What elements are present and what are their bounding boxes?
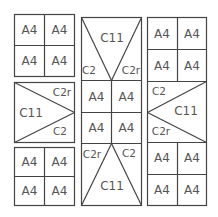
a4-label: A4	[184, 59, 200, 73]
a4-label: A4	[184, 183, 200, 197]
left-column: A4 A4 A4 A4 C2r C11 C2 A4 A4 A4 A4	[15, 15, 75, 206]
a4-label: A4	[119, 121, 135, 135]
a4-label: A4	[119, 90, 135, 104]
a4-label: A4	[89, 121, 105, 135]
right-c11-block: C2 C11 C2r	[148, 82, 207, 143]
a4-label: A4	[52, 23, 68, 37]
c2r-label: C2r	[122, 64, 141, 76]
c2-label: C2	[122, 147, 136, 159]
left-a4-grid-top: A4 A4 A4 A4	[15, 15, 75, 77]
c2-label: C2	[82, 64, 96, 76]
c11-label: C11	[174, 104, 198, 118]
a4-label: A4	[22, 184, 38, 198]
c2r-label: C2r	[53, 86, 72, 98]
envelope-layout-diagram: A4 A4 A4 A4 C2r C11 C2 A4 A4 A4 A4	[0, 0, 218, 217]
c2-label: C2	[53, 125, 67, 137]
middle-c11-top: C11 C2 C2r	[82, 18, 142, 81]
c2r-label: C2r	[83, 148, 102, 160]
right-a4-grid-top: A4 A4 A4 A4	[148, 18, 207, 82]
c11-label: C11	[19, 106, 43, 120]
middle-column: C11 C2 C2r A4 A4 A4 A4 C2r C2 C11	[82, 18, 142, 206]
a4-label: A4	[154, 151, 170, 165]
a4-label: A4	[154, 27, 170, 41]
a4-label: A4	[89, 90, 105, 104]
a4-label: A4	[154, 183, 170, 197]
c2-label: C2	[152, 85, 166, 97]
middle-c11-bottom: C2r C2 C11	[82, 144, 142, 206]
left-c11-block: C2r C11 C2	[15, 83, 75, 143]
a4-label: A4	[52, 184, 68, 198]
c11-label: C11	[100, 179, 124, 193]
middle-a4-grid: A4 A4 A4 A4	[82, 81, 142, 144]
a4-label: A4	[22, 54, 38, 68]
c2r-label: C2r	[152, 125, 171, 137]
a4-label: A4	[52, 54, 68, 68]
a4-label: A4	[22, 23, 38, 37]
a4-label: A4	[154, 59, 170, 73]
left-a4-grid-bottom: A4 A4 A4 A4	[15, 148, 75, 206]
a4-label: A4	[52, 155, 68, 169]
c11-label: C11	[100, 31, 124, 45]
a4-label: A4	[22, 155, 38, 169]
a4-label: A4	[184, 151, 200, 165]
a4-label: A4	[184, 27, 200, 41]
right-a4-grid-bottom: A4 A4 A4 A4	[148, 143, 207, 206]
right-column: A4 A4 A4 A4 C2 C11 C2r A4 A4 A4 A4	[148, 18, 207, 206]
